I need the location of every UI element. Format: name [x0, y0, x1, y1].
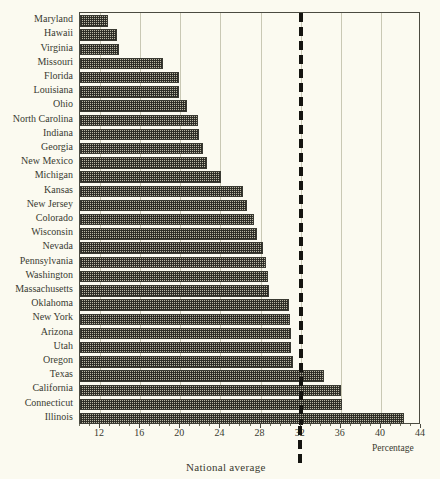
x-minor-tick — [229, 424, 230, 426]
average-line-dash — [299, 209, 303, 218]
average-line-dash — [299, 349, 303, 358]
average-line-dash — [299, 167, 303, 176]
y-axis-label-michigan: Michigan — [35, 170, 73, 180]
average-line-dash — [299, 321, 303, 330]
x-minor-tick — [119, 424, 120, 426]
average-line-dash-extension — [298, 440, 302, 449]
x-tick-mark-44 — [420, 424, 421, 428]
x-minor-tick — [169, 424, 170, 426]
average-line-dash-extension — [298, 426, 302, 435]
average-line-dash — [299, 195, 303, 204]
y-axis-label-arizona: Arizona — [41, 327, 73, 337]
y-axis-label-illinois: Illinois — [45, 412, 73, 422]
x-minor-tick — [209, 424, 210, 426]
x-tick-label-20: 20 — [174, 427, 184, 439]
y-axis-label-wisconsin: Wisconsin — [31, 227, 73, 237]
y-axis-label-georgia: Georgia — [41, 142, 73, 152]
average-line-dash — [299, 97, 303, 106]
y-axis-label-missouri: Missouri — [37, 57, 73, 67]
average-line-dash — [299, 363, 303, 372]
average-line-dash — [299, 41, 303, 50]
national-average-line — [80, 13, 419, 423]
x-minor-tick — [270, 424, 271, 426]
y-axis-label-florida: Florida — [44, 71, 73, 81]
x-tick-mark-28 — [260, 424, 261, 428]
y-axis-label-indiana: Indiana — [43, 128, 73, 138]
x-minor-tick — [410, 424, 411, 426]
average-line-dash — [299, 111, 303, 120]
x-tick-label-12: 12 — [94, 427, 104, 439]
x-minor-tick — [109, 424, 110, 426]
x-minor-tick — [159, 424, 160, 426]
x-minor-tick — [330, 424, 331, 426]
x-minor-tick — [310, 424, 311, 426]
x-minor-tick — [360, 424, 361, 426]
y-axis-label-connecticut: Connecticut — [25, 398, 73, 408]
average-line-dash — [299, 293, 303, 302]
x-minor-tick — [250, 424, 251, 426]
x-minor-tick — [280, 424, 281, 426]
y-axis-label-utah: Utah — [54, 341, 73, 351]
y-axis-labels: MarylandHawaiiVirginiaMissouriFloridaLou… — [0, 12, 76, 424]
y-axis-label-colorado: Colorado — [36, 213, 73, 223]
y-axis-label-new-jersey: New Jersey — [27, 199, 73, 209]
x-minor-tick — [400, 424, 401, 426]
bar-chart: MarylandHawaiiVirginiaMissouriFloridaLou… — [0, 0, 440, 479]
average-line-dash — [299, 83, 303, 92]
y-axis-label-kansas: Kansas — [44, 185, 73, 195]
y-axis-label-pennsylvania: Pennsylvania — [20, 256, 73, 266]
x-minor-tick — [390, 424, 391, 426]
x-minor-tick — [199, 424, 200, 426]
x-minor-tick — [239, 424, 240, 426]
y-axis-label-nevada: Nevada — [42, 241, 73, 251]
x-tick-label-24: 24 — [214, 427, 224, 439]
y-axis-label-massachusetts: Massachusetts — [15, 284, 73, 294]
average-line-dash — [299, 391, 303, 400]
y-axis-label-washington: Washington — [25, 270, 73, 280]
x-minor-tick — [129, 424, 130, 426]
x-minor-tick — [350, 424, 351, 426]
x-tick-mark-40 — [380, 424, 381, 428]
y-axis-label-hawaii: Hawaii — [44, 28, 73, 38]
x-minor-tick — [149, 424, 150, 426]
x-tick-mark-24 — [219, 424, 220, 428]
average-line-dash — [299, 139, 303, 148]
x-axis-title: Percentage — [372, 443, 414, 453]
average-line-dash-extension — [298, 454, 302, 463]
average-line-dash — [299, 125, 303, 134]
average-line-dash — [299, 335, 303, 344]
x-tick-mark-16 — [139, 424, 140, 428]
x-minor-tick — [79, 424, 80, 426]
average-line-dash — [299, 13, 303, 22]
average-line-dash — [299, 265, 303, 274]
x-minor-tick — [290, 424, 291, 426]
average-line-dash — [299, 27, 303, 36]
x-minor-tick — [370, 424, 371, 426]
x-axis-tick-labels: 121620242832364044 — [0, 427, 440, 441]
y-axis-label-north-carolina: North Carolina — [13, 114, 73, 124]
average-line-dash — [299, 237, 303, 246]
y-axis-label-maryland: Maryland — [34, 14, 73, 24]
average-line-dash — [299, 55, 303, 64]
x-tick-label-40: 40 — [375, 427, 385, 439]
x-tick-mark-20 — [179, 424, 180, 428]
average-line-dash — [299, 405, 303, 414]
y-axis-label-oregon: Oregon — [43, 355, 73, 365]
y-axis-label-new-york: New York — [32, 312, 73, 322]
y-axis-label-california: California — [32, 383, 73, 393]
average-line-dash — [299, 153, 303, 162]
x-tick-label-36: 36 — [335, 427, 345, 439]
y-axis-label-louisiana: Louisiana — [34, 85, 73, 95]
x-tick-label-16: 16 — [134, 427, 144, 439]
average-line-dash — [299, 251, 303, 260]
average-line-dash — [299, 279, 303, 288]
y-axis-label-new-mexico: New Mexico — [21, 156, 73, 166]
average-line-dash — [299, 223, 303, 232]
x-tick-mark-36 — [340, 424, 341, 428]
y-axis-label-virginia: Virginia — [40, 43, 73, 53]
national-average-caption: National average — [186, 461, 266, 473]
average-line-dash — [299, 69, 303, 78]
x-tick-mark-12 — [99, 424, 100, 428]
y-axis-label-oklahoma: Oklahoma — [31, 298, 73, 308]
x-minor-tick — [189, 424, 190, 426]
